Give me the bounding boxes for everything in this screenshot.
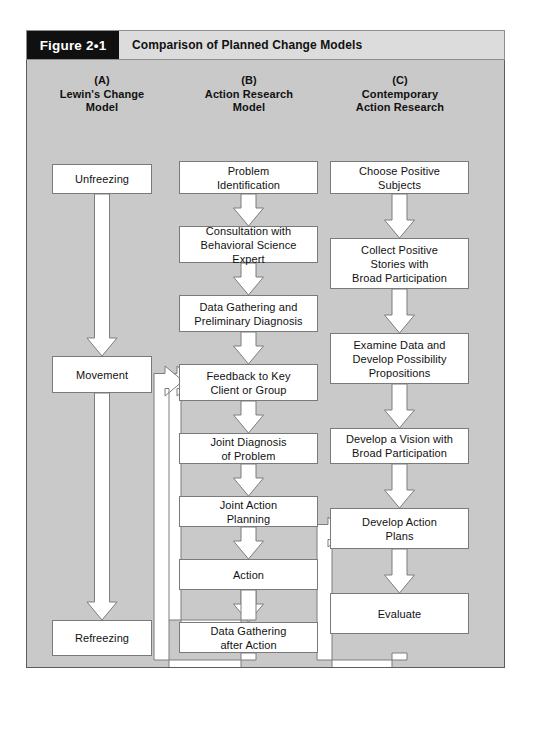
arrow-a-movement-to-refreezing (87, 393, 117, 620)
node-b-data-gathering-after-action-label: Data Gatheringafter Action (208, 624, 290, 652)
arrow-c-5 (385, 549, 415, 593)
node-b-problem-identification[interactable]: ProblemIdentification (179, 161, 318, 194)
node-a-refreezing[interactable]: Refreezing (52, 620, 152, 656)
column-c-name-line2: Action Research (330, 101, 470, 115)
node-c-collect-positive-stories-label: Collect PositiveStories withBroad Partic… (349, 243, 450, 285)
figure-header-bar: Figure 2•1 Comparison of Planned Change … (26, 30, 505, 60)
node-b-feedback-to-key-client-label: Feedback to KeyClient or Group (203, 369, 293, 397)
node-b-problem-identification-label: ProblemIdentification (214, 164, 283, 192)
figure-body-panel: (A) Lewin's Change Model (B) Action Rese… (26, 60, 505, 668)
node-c-develop-a-vision[interactable]: Develop a Vision withBroad Participation (330, 428, 469, 464)
node-c-develop-a-vision-label: Develop a Vision withBroad Participation (343, 432, 456, 460)
arrow-c-3 (385, 384, 415, 428)
node-b-joint-diagnosis[interactable]: Joint Diagnosisof Problem (179, 433, 318, 464)
node-b-action-label: Action (230, 568, 267, 582)
node-a-movement[interactable]: Movement (52, 356, 152, 393)
figure-container: Figure 2•1 Comparison of Planned Change … (26, 30, 505, 668)
column-c-name-line1: Contemporary (330, 88, 470, 102)
node-c-develop-action-plans-label: Develop ActionPlans (359, 515, 440, 543)
arrow-b-5 (234, 464, 264, 496)
node-b-data-gathering-label: Data Gathering andPreliminary Diagnosis (191, 300, 305, 328)
arrow-c-4 (385, 464, 415, 508)
node-c-choose-positive-subjects-label: Choose PositiveSubjects (356, 164, 443, 192)
column-b-name-line2: Model (179, 101, 319, 115)
node-b-data-gathering-after-action[interactable]: Data Gatheringafter Action (179, 622, 318, 653)
node-b-action[interactable]: Action (179, 559, 318, 590)
node-c-choose-positive-subjects[interactable]: Choose PositiveSubjects (330, 161, 469, 194)
node-b-joint-diagnosis-label: Joint Diagnosisof Problem (207, 435, 289, 463)
node-c-develop-action-plans[interactable]: Develop ActionPlans (330, 508, 469, 549)
node-b-joint-action-planning[interactable]: Joint ActionPlanning (179, 496, 318, 527)
column-b-letter: (B) (179, 74, 319, 88)
node-c-examine-data[interactable]: Examine Data andDevelop PossibilityPropo… (330, 333, 469, 384)
arrow-b-6 (234, 527, 264, 559)
arrow-b-2 (234, 263, 264, 295)
node-b-consultation-label: Consultation withBehavioral Science Expe… (180, 224, 317, 266)
arrow-c-1 (385, 194, 415, 238)
diagram-canvas: (A) Lewin's Change Model (B) Action Rese… (27, 60, 504, 667)
column-heading-b: (B) Action Research Model (179, 74, 319, 115)
node-c-collect-positive-stories[interactable]: Collect PositiveStories withBroad Partic… (330, 238, 469, 289)
arrow-b-3 (234, 332, 264, 364)
node-b-feedback-to-key-client[interactable]: Feedback to KeyClient or Group (179, 364, 318, 401)
arrow-c-2 (385, 289, 415, 333)
column-heading-c: (C) Contemporary Action Research (330, 74, 470, 115)
figure-title: Comparison of Planned Change Models (119, 31, 504, 59)
node-b-consultation[interactable]: Consultation withBehavioral Science Expe… (179, 226, 318, 263)
column-a-name-line1: Lewin's Change (32, 88, 172, 102)
node-a-unfreezing[interactable]: Unfreezing (52, 164, 152, 194)
figure-number-label: Figure 2•1 (27, 31, 119, 59)
column-a-name-line2: Model (32, 101, 172, 115)
node-a-refreezing-label: Refreezing (72, 631, 132, 645)
node-a-unfreezing-label: Unfreezing (72, 172, 132, 186)
arrow-b-4 (234, 401, 264, 433)
arrow-a-unfreezing-to-movement (87, 194, 117, 356)
node-c-examine-data-label: Examine Data andDevelop PossibilityPropo… (349, 338, 449, 380)
arrow-b-1 (234, 194, 264, 226)
column-c-letter: (C) (330, 74, 470, 88)
node-c-evaluate[interactable]: Evaluate (330, 593, 469, 634)
column-heading-a: (A) Lewin's Change Model (32, 74, 172, 115)
node-b-joint-action-planning-label: Joint ActionPlanning (217, 498, 280, 526)
node-b-data-gathering[interactable]: Data Gathering andPreliminary Diagnosis (179, 295, 318, 332)
column-b-name-line1: Action Research (179, 88, 319, 102)
node-c-evaluate-label: Evaluate (375, 607, 425, 621)
column-a-letter: (A) (32, 74, 172, 88)
node-a-movement-label: Movement (73, 368, 131, 382)
